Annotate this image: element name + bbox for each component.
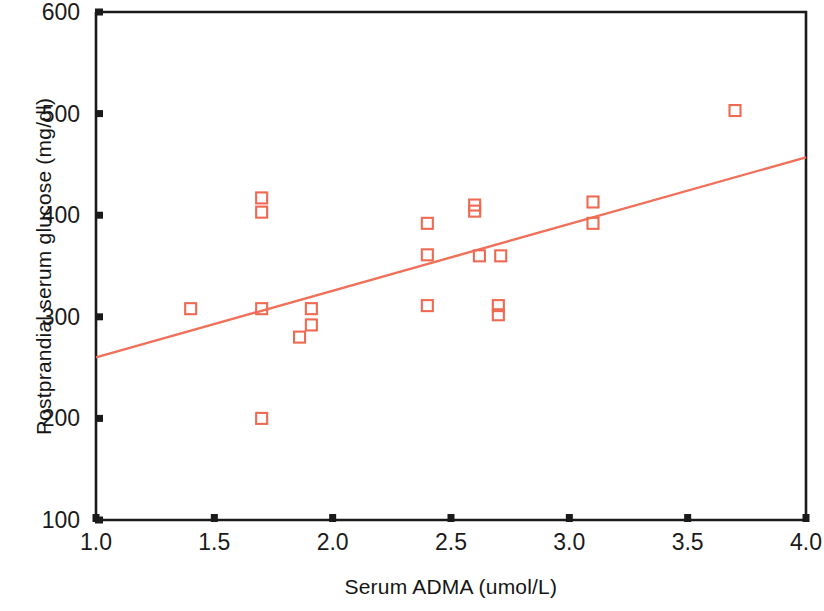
data-point [256,207,267,218]
y-tick-mark [95,415,103,422]
data-point [422,249,433,260]
trend-line [96,157,806,357]
y-tick-mark [95,110,103,117]
data-point [474,250,485,261]
data-point [422,218,433,229]
data-point [185,303,196,314]
data-point [422,300,433,311]
x-tick-mark [803,514,810,522]
data-point [256,413,267,424]
y-tick-label: 600 [42,0,80,25]
x-tick-mark [211,514,218,522]
y-axis-title: Postprandial serum glucose (mg/dl) [32,97,56,434]
data-point [256,192,267,203]
x-tick-mark [448,514,455,522]
y-tick-mark [95,313,103,320]
data-point [588,196,599,207]
data-point [495,250,506,261]
data-point [306,319,317,330]
x-tick-label: 1.5 [198,529,230,555]
x-axis-title: Serum ADMA (umol/L) [345,575,558,599]
x-tick-label: 4.0 [790,529,822,555]
x-tick-label: 1.0 [80,529,112,555]
y-tick-mark [95,9,103,16]
x-tick-label: 3.5 [672,529,704,555]
data-point [306,303,317,314]
axis-frame [96,12,806,520]
x-tick-mark [566,514,573,522]
data-point-markers [185,105,740,424]
x-axis-tick-labels: 1.01.52.02.53.03.54.0 [80,529,822,555]
data-point [294,332,305,343]
x-tick-mark [329,514,336,522]
plot-canvas: 1.01.52.02.53.03.54.0 100200300400500600 [0,0,824,611]
x-tick-mark [684,514,691,522]
x-tick-label: 2.0 [317,529,349,555]
regression-line [96,157,806,357]
data-point [730,105,741,116]
y-tick-mark [95,517,103,524]
x-tick-label: 3.0 [553,529,585,555]
y-tick-mark [95,212,103,219]
y-tick-label: 100 [42,507,80,533]
scatter-chart: 1.01.52.02.53.03.54.0 100200300400500600… [0,0,824,611]
x-tick-label: 2.5 [435,529,467,555]
